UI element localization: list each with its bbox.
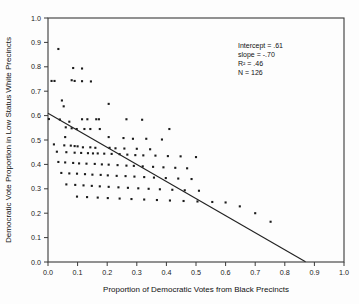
data-point — [82, 184, 84, 186]
data-point — [64, 161, 66, 163]
data-point — [108, 186, 110, 188]
data-point — [81, 67, 83, 69]
x-axis-tick-label: 0.1 — [73, 268, 83, 277]
data-point — [48, 118, 50, 120]
data-point — [141, 119, 143, 121]
data-point — [119, 198, 121, 200]
data-point — [177, 178, 179, 180]
data-point — [108, 164, 110, 166]
data-point — [107, 174, 109, 176]
x-axis-tick-label: 0.3 — [132, 268, 142, 277]
data-point — [74, 145, 76, 147]
data-point — [126, 154, 128, 156]
data-point — [159, 188, 161, 190]
x-axis-tick-label: 0.2 — [102, 268, 112, 277]
data-point — [95, 118, 97, 120]
data-point — [61, 99, 63, 101]
data-point — [76, 196, 78, 198]
data-point — [169, 199, 171, 201]
data-point — [107, 197, 109, 199]
data-point — [154, 155, 156, 157]
data-point — [165, 177, 167, 179]
data-point — [174, 167, 176, 169]
data-point — [133, 176, 135, 178]
data-point — [171, 189, 173, 191]
data-point — [91, 185, 93, 187]
data-point — [64, 136, 66, 138]
data-point — [162, 166, 164, 168]
data-point — [198, 190, 200, 192]
data-point — [65, 183, 67, 185]
y-axis-tick-label: 0.1 — [31, 233, 41, 242]
data-point — [90, 80, 92, 82]
y-axis-tick-label: 0.6 — [31, 111, 41, 120]
data-point — [68, 121, 70, 123]
y-axis-tick-label: 0.2 — [31, 209, 41, 218]
x-axis-tick-label: 0.7 — [250, 268, 260, 277]
regression-line — [48, 113, 306, 262]
data-point — [134, 154, 136, 156]
data-point — [74, 80, 76, 82]
y-axis-tick-label: 0.9 — [31, 38, 41, 47]
data-point — [85, 163, 87, 165]
data-point — [125, 118, 127, 120]
data-point — [108, 136, 110, 138]
data-point — [183, 200, 185, 202]
data-point — [123, 147, 125, 149]
y-axis-tick-label: 0.8 — [31, 62, 41, 71]
data-point — [239, 205, 241, 207]
data-point — [254, 212, 256, 214]
plot-frame — [48, 18, 344, 262]
data-point — [57, 161, 59, 163]
data-point — [100, 174, 102, 176]
data-point — [83, 128, 85, 130]
data-point — [89, 146, 91, 148]
data-point — [142, 154, 144, 156]
data-point — [152, 166, 154, 168]
data-point — [71, 79, 73, 81]
data-point — [56, 151, 58, 153]
data-point — [195, 156, 197, 158]
data-point — [196, 200, 198, 202]
data-point — [68, 172, 70, 174]
data-point — [53, 80, 55, 82]
data-point — [125, 175, 127, 177]
data-point — [136, 148, 138, 150]
data-point — [101, 163, 103, 165]
x-axis-tick-label: 0.4 — [161, 268, 171, 277]
x-axis-title: Proportion of Democratic Votes from Blac… — [103, 285, 289, 294]
annotation-sample-size: N = 126 — [238, 69, 263, 76]
data-point — [156, 199, 158, 201]
data-point — [148, 188, 150, 190]
y-axis-tick-label: 0.3 — [31, 184, 41, 193]
data-point — [80, 152, 82, 154]
annotation-r-squared: R² = .46 — [238, 60, 263, 67]
data-point — [143, 198, 145, 200]
data-point — [161, 138, 163, 140]
data-point — [89, 128, 91, 130]
data-point — [99, 128, 101, 130]
data-point — [81, 80, 83, 82]
data-point — [270, 221, 272, 223]
y-axis-tick-label: 0.5 — [31, 136, 41, 145]
data-point — [51, 80, 53, 82]
y-axis-tick-label: 0.0 — [31, 258, 41, 267]
data-point — [72, 67, 74, 69]
x-axis-tick-label: 0.0 — [43, 268, 53, 277]
data-point — [117, 186, 119, 188]
data-point — [130, 198, 132, 200]
data-point — [82, 146, 84, 148]
data-point — [149, 148, 151, 150]
data-point — [116, 175, 118, 177]
data-point — [60, 172, 62, 174]
x-axis-tick-label: 0.9 — [309, 268, 319, 277]
data-point — [72, 162, 74, 164]
data-point — [191, 178, 193, 180]
data-point — [86, 118, 88, 120]
data-point — [114, 147, 116, 149]
data-point — [103, 153, 105, 155]
data-point — [186, 167, 188, 169]
data-point — [145, 138, 147, 140]
data-point — [57, 48, 59, 50]
scatter-plot-svg: 0.00.10.20.30.40.50.60.70.80.91.00.00.10… — [0, 0, 359, 304]
